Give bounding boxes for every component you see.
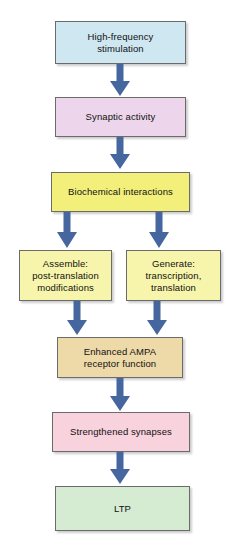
node-label: Biochemical interactions	[68, 186, 173, 198]
edge-assemble-to-ampa	[65, 301, 89, 336]
flowchart-canvas: High-frequency stimulation Synaptic acti…	[0, 0, 240, 544]
node-strengthened-synapses[interactable]: Strengthened synapses	[52, 412, 190, 452]
edge-stimulation-to-synaptic	[108, 64, 132, 97]
edge-strengthened-to-ltp	[108, 452, 132, 485]
edge-synaptic-to-biochemical	[108, 137, 132, 170]
node-label: Synaptic activity	[86, 111, 156, 123]
node-label: Strengthened synapses	[70, 426, 172, 438]
node-assemble-post-translation-modifications[interactable]: Assemble: post-translation modifications	[19, 250, 112, 301]
node-high-frequency-stimulation[interactable]: High-frequency stimulation	[55, 21, 186, 64]
node-label: Generate: transcription, translation	[146, 258, 202, 294]
node-enhanced-ampa-receptor-function[interactable]: Enhanced AMPA receptor function	[57, 337, 183, 378]
edge-ampa-to-strengthened	[108, 378, 132, 412]
edge-biochemical-to-assemble	[55, 212, 79, 249]
node-ltp[interactable]: LTP	[55, 486, 190, 531]
node-label: LTP	[114, 503, 131, 515]
node-biochemical-interactions[interactable]: Biochemical interactions	[51, 172, 190, 212]
node-synaptic-activity[interactable]: Synaptic activity	[55, 97, 186, 137]
edge-biochemical-to-generate	[147, 212, 171, 249]
node-label: Enhanced AMPA receptor function	[84, 346, 156, 370]
node-label: High-frequency stimulation	[88, 31, 154, 55]
edge-generate-to-ampa	[145, 301, 169, 336]
node-generate-transcription-translation[interactable]: Generate: transcription, translation	[126, 250, 221, 301]
node-label: Assemble: post-translation modifications	[32, 258, 99, 294]
